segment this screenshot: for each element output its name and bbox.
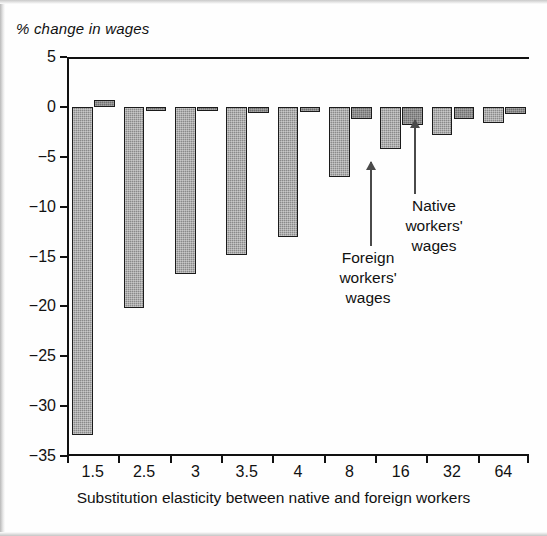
bar-foreign-wages (278, 107, 299, 237)
y-tick-label: −10 (29, 198, 56, 216)
x-tick-label: 64 (494, 463, 512, 481)
x-axis-title: Substitution elasticity between native a… (77, 489, 471, 507)
x-tick (118, 456, 120, 463)
x-tick (324, 456, 326, 463)
y-tick-label: 5 (47, 48, 56, 66)
bar-native-wages (146, 107, 167, 112)
bar-foreign-wages (226, 107, 247, 255)
x-tick (67, 456, 69, 463)
y-tick (60, 455, 67, 457)
x-tick (478, 456, 480, 463)
x-tick-label: 32 (443, 463, 461, 481)
y-tick (60, 106, 67, 108)
x-axis-line (67, 454, 529, 456)
bar-native-wages (454, 107, 475, 119)
bar-foreign-wages (483, 107, 504, 123)
y-axis-line (67, 57, 69, 456)
x-tick (527, 456, 529, 463)
x-tick (272, 456, 274, 463)
bar-native-wages (248, 107, 269, 113)
y-axis-title: % change in wages (16, 20, 150, 37)
bar-foreign-wages (72, 107, 93, 435)
y-tick (60, 206, 67, 208)
y-tick-label: −30 (29, 397, 56, 415)
arrow-foreign-workers (370, 162, 372, 246)
bar-native-wages (505, 107, 526, 114)
y-tick-label: −5 (38, 148, 56, 166)
bar-foreign-wages (175, 107, 196, 275)
x-tick-label: 3 (191, 463, 200, 481)
page-edge-top (0, 0, 547, 4)
bar-native-wages (300, 107, 321, 112)
bar-foreign-wages (329, 107, 350, 177)
x-tick-label: 16 (392, 463, 410, 481)
page-edge-bottom (0, 532, 547, 536)
y-tick (60, 305, 67, 307)
bar-native-wages (197, 107, 218, 112)
y-tick-label: −35 (29, 447, 56, 465)
bar-foreign-wages (380, 107, 401, 149)
y-tick-label: −15 (29, 248, 56, 266)
x-tick-label: 1.5 (82, 463, 104, 481)
zero-baseline (67, 57, 529, 59)
x-tick (375, 456, 377, 463)
bar-native-wages (94, 100, 115, 107)
annotation-native-workers: Native workers' wages (380, 196, 488, 256)
plot-area: 50−5−10−15−20−25−30−35 1.52.533.54816326… (67, 57, 529, 456)
x-tick (170, 456, 172, 463)
y-tick-label: −25 (29, 347, 56, 365)
y-tick (60, 56, 67, 58)
annotation-foreign-workers: Foreign workers' wages (310, 248, 426, 308)
arrow-native-workers (414, 120, 416, 194)
x-tick-label: 3.5 (236, 463, 258, 481)
y-tick-label: −20 (29, 297, 56, 315)
bar-foreign-wages (432, 107, 453, 135)
x-tick-label: 8 (345, 463, 354, 481)
y-tick-label: 0 (47, 98, 56, 116)
y-tick (60, 355, 67, 357)
y-tick (60, 405, 67, 407)
x-tick (221, 456, 223, 463)
x-tick-label: 4 (294, 463, 303, 481)
y-tick (60, 256, 67, 258)
x-tick-label: 2.5 (133, 463, 155, 481)
y-tick (60, 156, 67, 158)
x-tick (426, 456, 428, 463)
bar-foreign-wages (124, 107, 145, 308)
bar-native-wages (351, 107, 372, 119)
page-edge-left (0, 0, 5, 536)
figure-root: % change in wages 50−5−10−15−20−25−30−35… (0, 0, 547, 536)
